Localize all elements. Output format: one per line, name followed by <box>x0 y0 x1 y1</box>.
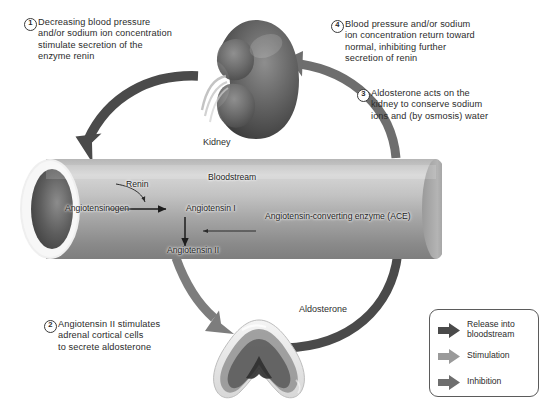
step-text-1: Decreasing blood pressure and/or sodium … <box>24 17 224 63</box>
renin-label: Renin <box>126 179 148 189</box>
ace-label: Angiotensin-converting enzyme (ACE) <box>265 211 411 222</box>
step-text-2: Angiotensin II stimulates adrenal cortic… <box>44 319 224 353</box>
legend-item-inhibition: Inhibition <box>437 369 532 395</box>
callout-step-3: 3 Aldosterone acts on the kidney to cons… <box>357 88 547 122</box>
step-number-1: 1 <box>24 18 37 31</box>
diagram-canvas: Kidney <box>0 0 548 408</box>
legend-label-release: Release into bloodstream <box>467 320 515 340</box>
legend-item-release-into-bloodstream: Release into bloodstream <box>437 317 532 343</box>
arrow-step1-to-bloodstream <box>76 76 199 163</box>
step-number-3: 3 <box>357 89 370 102</box>
callout-step-4: 4 Blood pressure and/or sodium ion conce… <box>331 19 541 65</box>
angiotensin-2-label: Angiotensin II <box>167 245 219 255</box>
angiotensin-1-label: Angiotensin I <box>186 203 236 213</box>
step-number-2: 2 <box>44 320 57 333</box>
step-text-4: Blood pressure and/or sodium ion concent… <box>331 19 541 65</box>
aldosterone-label: Aldosterone <box>299 304 347 314</box>
inhibition-arrow-icon <box>437 374 461 391</box>
legend-box: Release into bloodstream Stimulation Inh… <box>429 309 539 397</box>
legend-label-stimulation: Stimulation <box>467 351 510 361</box>
callout-step-1: 1 Decreasing blood pressure and/or sodiu… <box>24 17 224 63</box>
legend-label-inhibition: Inhibition <box>467 377 501 387</box>
step-number-4: 4 <box>331 20 344 33</box>
release-arrow-icon <box>437 322 461 339</box>
callout-step-2: 2 Angiotensin II stimulates adrenal cort… <box>44 319 224 353</box>
kidney-label: Kidney <box>203 137 231 147</box>
adrenal-gland-illustration <box>212 318 308 404</box>
stimulation-arrow-icon <box>437 348 461 365</box>
angiotensinogen-label: Angiotensinogen <box>65 203 129 213</box>
step-text-3: Aldosterone acts on the kidney to conser… <box>357 88 547 122</box>
legend-item-stimulation: Stimulation <box>437 343 532 369</box>
